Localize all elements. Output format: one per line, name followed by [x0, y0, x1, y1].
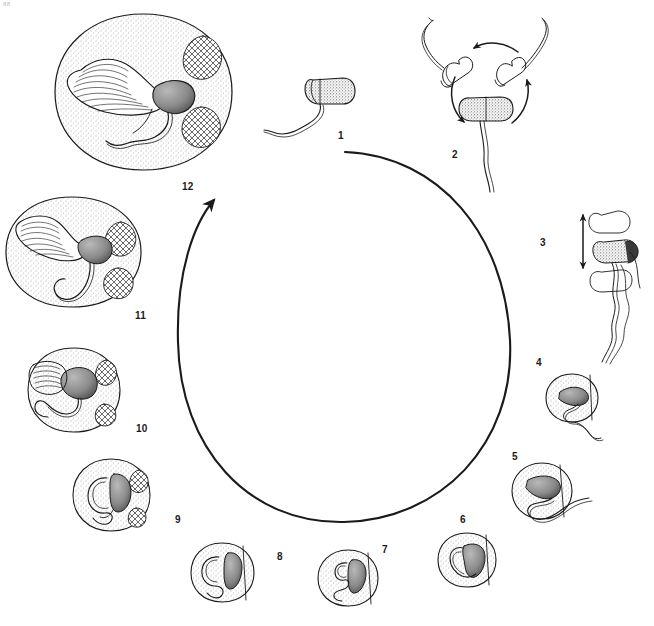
stage-label-3: 3: [540, 238, 546, 248]
stage-label-4: 4: [536, 358, 542, 368]
stage-8-cell: [191, 543, 254, 602]
stage-label-11: 11: [135, 311, 146, 321]
stage-3-oscillating-sperm: [583, 211, 640, 364]
stage-label-8: 8: [277, 552, 283, 562]
stage-4-cell: [546, 374, 603, 441]
stage-5-cell: [512, 463, 592, 522]
stage-label-9: 9: [175, 515, 181, 525]
stage-9-cell: [73, 459, 150, 531]
stage-label-5: 5: [512, 452, 518, 462]
stage-label-12: 12: [182, 182, 194, 192]
stage-label-6: 6: [460, 515, 466, 525]
stage-label-7: 7: [382, 545, 388, 555]
stage-11-cell: [6, 197, 141, 307]
stage-1-free-sperm: [264, 78, 355, 137]
stage-label-2: 2: [452, 150, 458, 160]
stage-6-cell: [438, 533, 496, 587]
sperm-cycle-diagram: [0, 0, 654, 626]
stage-10-cell: [28, 348, 120, 432]
stage-2-rotating-sperm: [422, 18, 548, 192]
figure-page: 88: [0, 0, 654, 626]
stage-label-1: 1: [338, 131, 344, 141]
stage-12-cell: [55, 14, 232, 170]
stage-label-10: 10: [136, 424, 148, 434]
stage-7-cell: [318, 550, 378, 606]
central-cycle-arrow: [178, 152, 510, 522]
